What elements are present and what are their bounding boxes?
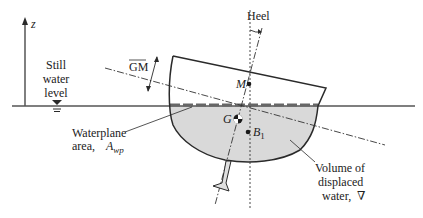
gm-dimension: GM — [129, 56, 159, 92]
svg-text:displaced: displaced — [318, 175, 363, 189]
heel-angle-indicator: Heel — [247, 9, 270, 34]
rudder — [213, 161, 231, 191]
svg-text:Volume of: Volume of — [315, 161, 365, 175]
gm-label: GM — [129, 60, 149, 74]
z-axis-label: z — [30, 17, 36, 31]
waterplane-area-label: Waterplane area, Awp — [72, 126, 126, 155]
svg-text:water,: water, — [322, 189, 351, 203]
displaced-volume-label: Volume of displaced water, ∇ — [315, 161, 365, 203]
svg-text:level: level — [44, 86, 68, 100]
metacenter-point — [247, 82, 252, 87]
center-of-gravity-label: G — [223, 112, 232, 126]
svg-text:Awp: Awp — [105, 139, 124, 155]
svg-text:area,: area, — [72, 139, 95, 153]
svg-text:Waterplane: Waterplane — [72, 126, 126, 140]
still-water-level-label: Still water level — [43, 58, 70, 100]
svg-text:Still: Still — [46, 58, 67, 72]
center-of-buoyancy-point — [246, 130, 251, 135]
heel-label: Heel — [247, 9, 270, 23]
ship-stability-diagram: z Still water level Heel GM M — [0, 0, 423, 218]
svg-text:∇: ∇ — [357, 189, 365, 203]
z-axis: z — [22, 17, 36, 106]
metacenter-label: M — [235, 77, 247, 91]
center-of-gravity-icon — [234, 115, 243, 124]
svg-text:water: water — [43, 72, 70, 86]
displaced-water-region — [170, 106, 318, 162]
